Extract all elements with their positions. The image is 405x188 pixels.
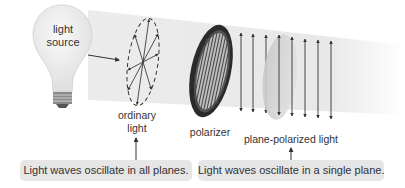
label-ordinary-light: ordinary light <box>112 109 162 135</box>
label-polarizer: polarizer <box>180 126 240 139</box>
light-beam <box>88 10 405 115</box>
caption-all-planes: Light waves oscillate in all planes. <box>20 160 192 181</box>
label-plane-polarized-light: plane-polarized light <box>235 133 347 146</box>
light-bulb-icon <box>33 5 92 108</box>
caption-single-plane: Light waves oscillate in a single plane. <box>198 160 384 181</box>
polarization-diagram: light source ordinary light polarizer pl… <box>0 0 405 188</box>
label-light-source: light source <box>44 23 82 49</box>
